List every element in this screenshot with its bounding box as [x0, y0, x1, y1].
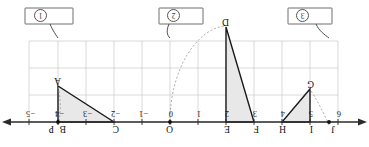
arc-j-to-g	[310, 89, 329, 125]
leader-two	[167, 24, 170, 38]
tick-label-m4: −4	[55, 110, 64, 119]
diagram-graphics	[0, 0, 369, 147]
point-label-p: P	[49, 124, 54, 134]
leader-one	[50, 24, 58, 38]
figure-canvas: 6 5 4 3 2 1 0 −1 −2 −3 −4 −5 A B C D E F…	[0, 0, 369, 147]
tick-label-4: 4	[281, 110, 285, 119]
tick-label-5: 5	[309, 110, 313, 119]
point-label-f: F	[254, 124, 259, 134]
tick-label-2: 2	[225, 110, 229, 119]
tick-label-m2: −2	[111, 110, 120, 119]
point-label-a: A	[54, 76, 61, 86]
callout-one-box	[25, 8, 73, 24]
triangle-ghj	[282, 89, 310, 122]
callout-leaders	[50, 24, 329, 38]
tick-label-3: 3	[253, 110, 257, 119]
callout-two-number[interactable]: 2	[167, 9, 180, 22]
leader-three	[316, 24, 329, 38]
tick-label-6: 6	[337, 110, 341, 119]
tick-label-0: 0	[169, 110, 173, 119]
callout-one-number[interactable]: 1	[34, 9, 47, 22]
point-label-b: B	[60, 124, 66, 134]
point-label-e: E	[224, 124, 230, 134]
point-label-o: O	[166, 124, 173, 134]
point-label-g: G	[307, 79, 314, 89]
point-label-j: J	[331, 124, 335, 134]
callout-three-number[interactable]: 3	[296, 9, 309, 22]
tick-label-m5: −5	[26, 110, 35, 119]
callout-three-box	[288, 8, 332, 24]
point-label-c: C	[113, 124, 119, 134]
tick-label-m1: −1	[139, 110, 148, 119]
callout-two-box	[159, 8, 203, 24]
axis-arrow-left	[358, 119, 367, 126]
point-label-h: H	[279, 124, 286, 134]
point-label-d: D	[222, 17, 229, 27]
tick-label-m3: −3	[83, 110, 92, 119]
axis-arrow-right	[2, 119, 11, 126]
tick-label-1: 1	[197, 110, 201, 119]
point-label-i: I	[310, 124, 313, 134]
diagram-scene: 6 5 4 3 2 1 0 −1 −2 −3 −4 −5 A B C D E F…	[0, 0, 369, 147]
